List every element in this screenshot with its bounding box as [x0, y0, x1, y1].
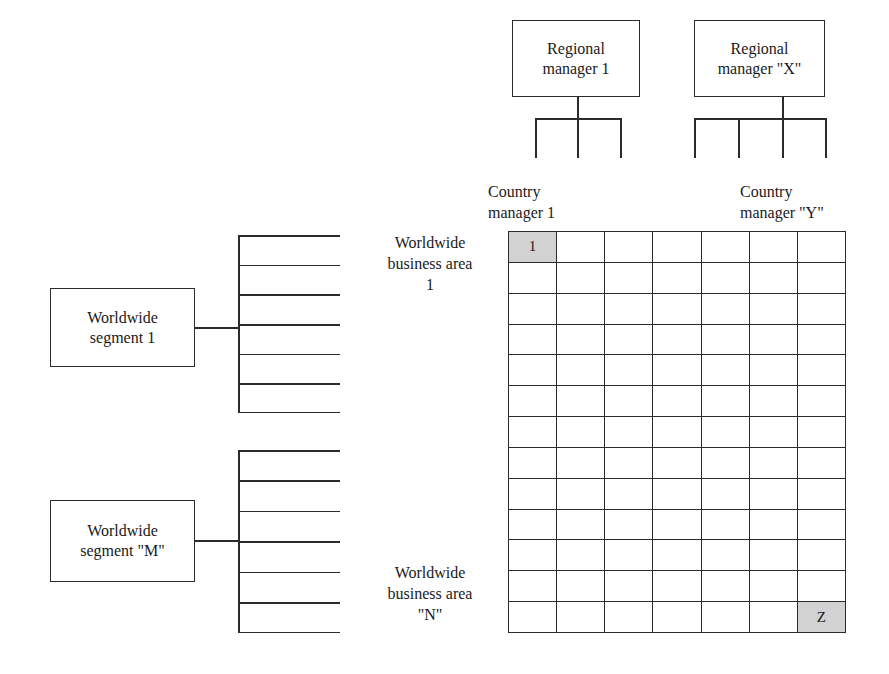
matrix-cell[interactable] — [798, 263, 846, 294]
matrix-cell[interactable] — [702, 510, 750, 541]
matrix-cell[interactable] — [557, 510, 605, 541]
matrix-cell[interactable] — [653, 510, 701, 541]
matrix-cell[interactable] — [509, 386, 557, 417]
matrix-cell[interactable] — [798, 510, 846, 541]
matrix-cell-highlighted[interactable]: Z — [798, 602, 846, 633]
matrix-cell[interactable] — [702, 448, 750, 479]
matrix-cell[interactable] — [798, 232, 846, 263]
matrix-cell[interactable] — [750, 355, 798, 386]
matrix-cell[interactable] — [750, 325, 798, 356]
matrix-cell[interactable] — [605, 232, 653, 263]
matrix-cell[interactable] — [798, 417, 846, 448]
worldwide-segment-m-box[interactable]: Worldwide segment "M" — [50, 500, 195, 582]
matrix-cell[interactable] — [509, 540, 557, 571]
matrix-cell[interactable] — [509, 355, 557, 386]
worldwide-segment-1-box[interactable]: Worldwide segment 1 — [50, 288, 195, 367]
matrix-cell[interactable] — [750, 294, 798, 325]
matrix-cell[interactable] — [557, 325, 605, 356]
matrix-cell[interactable] — [653, 232, 701, 263]
matrix-cell[interactable] — [605, 571, 653, 602]
matrix-cell[interactable] — [605, 325, 653, 356]
matrix-cell[interactable] — [509, 571, 557, 602]
matrix-cell[interactable] — [653, 571, 701, 602]
matrix-cell[interactable] — [509, 479, 557, 510]
matrix-cell[interactable] — [653, 263, 701, 294]
matrix-cell[interactable] — [605, 479, 653, 510]
matrix-cell[interactable] — [509, 263, 557, 294]
matrix-cell[interactable] — [798, 325, 846, 356]
matrix-cell[interactable] — [653, 540, 701, 571]
matrix-cell[interactable] — [653, 386, 701, 417]
matrix-cell[interactable] — [557, 417, 605, 448]
matrix-cell[interactable] — [702, 263, 750, 294]
matrix-cell[interactable] — [798, 294, 846, 325]
matrix-grid[interactable]: 1Z — [508, 231, 846, 633]
matrix-cell[interactable] — [653, 325, 701, 356]
matrix-cell[interactable] — [750, 263, 798, 294]
matrix-cell[interactable] — [798, 448, 846, 479]
matrix-cell[interactable] — [798, 540, 846, 571]
matrix-cell[interactable] — [750, 510, 798, 541]
matrix-cell[interactable] — [509, 602, 557, 633]
matrix-cell[interactable] — [653, 602, 701, 633]
matrix-cell[interactable] — [702, 602, 750, 633]
matrix-cell[interactable] — [605, 448, 653, 479]
matrix-cell[interactable] — [702, 232, 750, 263]
matrix-cell[interactable] — [557, 571, 605, 602]
matrix-cell[interactable] — [750, 232, 798, 263]
matrix-cell[interactable] — [702, 386, 750, 417]
matrix-cell[interactable] — [605, 355, 653, 386]
matrix-cell[interactable] — [557, 448, 605, 479]
regional-manager-x-box[interactable]: Regional manager "X" — [694, 20, 825, 97]
matrix-cell-highlighted[interactable]: 1 — [509, 232, 557, 263]
matrix-cell[interactable] — [653, 479, 701, 510]
matrix-cell[interactable] — [605, 263, 653, 294]
matrix-cell[interactable] — [557, 355, 605, 386]
matrix-cell[interactable] — [702, 417, 750, 448]
matrix-cell[interactable] — [750, 417, 798, 448]
regional-manager-x-label: Regional manager "X" — [718, 39, 802, 79]
comb-tooth — [238, 294, 340, 296]
matrix-cell[interactable] — [702, 294, 750, 325]
regional-manager-1-box[interactable]: Regional manager 1 — [512, 20, 640, 97]
matrix-cell[interactable] — [750, 602, 798, 633]
matrix-cell[interactable] — [750, 571, 798, 602]
matrix-cell[interactable] — [509, 448, 557, 479]
matrix-cell[interactable] — [509, 510, 557, 541]
matrix-cell[interactable] — [557, 386, 605, 417]
matrix-cell[interactable] — [509, 417, 557, 448]
comb-tooth — [238, 480, 340, 482]
matrix-cell[interactable] — [750, 479, 798, 510]
matrix-cell[interactable] — [605, 602, 653, 633]
matrix-cell[interactable] — [557, 263, 605, 294]
matrix-cell[interactable] — [605, 510, 653, 541]
comb-tooth — [238, 265, 340, 267]
matrix-cell[interactable] — [605, 540, 653, 571]
matrix-cell[interactable] — [702, 355, 750, 386]
matrix-cell[interactable] — [653, 448, 701, 479]
matrix-cell[interactable] — [702, 325, 750, 356]
matrix-cell[interactable] — [653, 417, 701, 448]
matrix-cell[interactable] — [605, 417, 653, 448]
matrix-cell[interactable] — [557, 232, 605, 263]
matrix-cell[interactable] — [557, 602, 605, 633]
matrix-cell[interactable] — [750, 386, 798, 417]
matrix-cell[interactable] — [750, 540, 798, 571]
matrix-cell[interactable] — [750, 448, 798, 479]
matrix-cell[interactable] — [509, 294, 557, 325]
matrix-cell[interactable] — [557, 479, 605, 510]
matrix-cell[interactable] — [605, 386, 653, 417]
matrix-cell[interactable] — [509, 325, 557, 356]
matrix-cell[interactable] — [702, 571, 750, 602]
matrix-cell[interactable] — [702, 479, 750, 510]
matrix-cell[interactable] — [798, 571, 846, 602]
matrix-cell[interactable] — [557, 540, 605, 571]
matrix-cell[interactable] — [557, 294, 605, 325]
matrix-cell[interactable] — [653, 355, 701, 386]
matrix-cell[interactable] — [798, 386, 846, 417]
matrix-cell[interactable] — [653, 294, 701, 325]
matrix-cell[interactable] — [798, 479, 846, 510]
matrix-cell[interactable] — [605, 294, 653, 325]
matrix-cell[interactable] — [702, 540, 750, 571]
matrix-cell[interactable] — [798, 355, 846, 386]
